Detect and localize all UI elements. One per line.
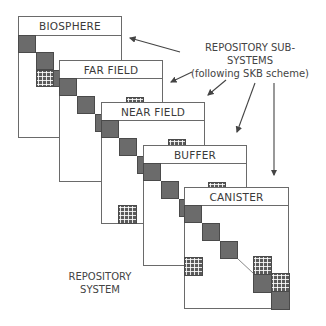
annotation-title: REPOSITORY SUB-SYSTEMS (182, 41, 318, 67)
arrow-to-biosphere (130, 38, 180, 52)
system-label-line1: REPOSITORY (60, 270, 140, 283)
connector-line (238, 259, 253, 273)
system-label-line2: SYSTEM (60, 283, 140, 296)
arrow-to-buffer (237, 83, 255, 132)
repository-system-label: REPOSITORY SYSTEM (60, 270, 140, 296)
subsystems-annotation: REPOSITORY SUB-SYSTEMS (following SKB sc… (182, 41, 318, 80)
arrow-to-near-field (208, 80, 226, 95)
annotation-subtitle: (following SKB scheme) (182, 67, 318, 80)
